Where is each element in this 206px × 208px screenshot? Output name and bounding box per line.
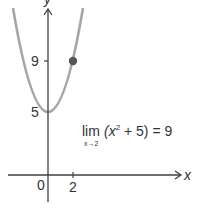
y-tick-label-5: 5 [31,104,39,120]
limit-expression: (x2 + 5) = 9 [104,123,172,139]
limit-subscript: x→2 [84,140,99,147]
x-axis-label: x [183,167,192,183]
y-tick-label-9: 9 [31,53,39,69]
y-axis-label: y [43,0,52,7]
limit-graph: y x 9 5 0 2 lim x→2 (x2 + 5) = 9 [0,0,206,208]
x-tick-label-2: 2 [69,179,77,195]
limit-lim: lim [82,123,100,139]
point-2-9 [69,57,77,65]
x-tick-label-0: 0 [37,177,45,193]
